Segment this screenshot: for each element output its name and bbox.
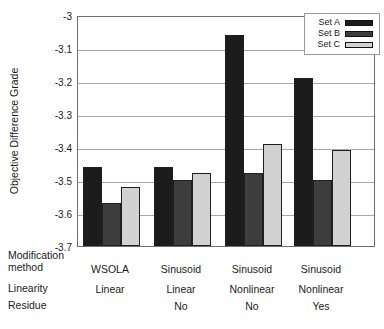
residue-value-group-4: Yes	[276, 301, 366, 312]
legend-label-set-b: Set B	[318, 29, 340, 38]
y-tick-label: -3.2	[36, 77, 72, 88]
row-label-residue: Residue	[8, 300, 47, 312]
bar-set-a-group-2	[154, 167, 173, 246]
bar-set-c-group-2	[192, 173, 211, 246]
y-tick-label: -3	[36, 11, 72, 22]
bar-set-a-group-1	[83, 167, 102, 246]
bar-set-c-group-4	[332, 150, 351, 246]
y-tick-label: -3.6	[36, 209, 72, 220]
bar-set-b-group-4	[313, 180, 332, 246]
bar-set-c-group-3	[263, 144, 282, 246]
y-tick-label: -3.4	[36, 143, 72, 154]
bar-set-a-group-3	[225, 35, 244, 246]
legend-swatch-set-c	[345, 42, 373, 48]
legend-item-set-a: Set A	[310, 18, 373, 27]
modification_method-value-group-4: Sinusoid	[276, 264, 366, 275]
bar-set-c-group-1	[121, 187, 140, 246]
legend-item-set-b: Set B	[310, 29, 373, 38]
bar-set-a-group-4	[294, 78, 313, 246]
legend: Set A Set B Set C	[304, 13, 380, 55]
bar-set-b-group-3	[244, 173, 263, 246]
linearity-value-group-4: Nonlinear	[276, 284, 366, 295]
legend-swatch-set-a	[345, 20, 373, 26]
bar-set-b-group-2	[173, 180, 192, 246]
y-tick-label: -3.3	[36, 110, 72, 121]
legend-label-set-a: Set A	[318, 18, 340, 27]
legend-swatch-set-b	[345, 31, 373, 37]
bar-chart-figure: Objective Difference Grade -3-3.1-3.2-3.…	[0, 0, 384, 329]
bar-set-b-group-1	[102, 203, 121, 246]
y-tick-label: -3.5	[36, 176, 72, 187]
y-tick-label: -3.1	[36, 44, 72, 55]
y-axis-title: Objective Difference Grade	[8, 68, 20, 194]
legend-item-set-c: Set C	[310, 40, 373, 49]
row-label-linearity: Linearity	[8, 283, 48, 295]
legend-label-set-c: Set C	[317, 40, 340, 49]
